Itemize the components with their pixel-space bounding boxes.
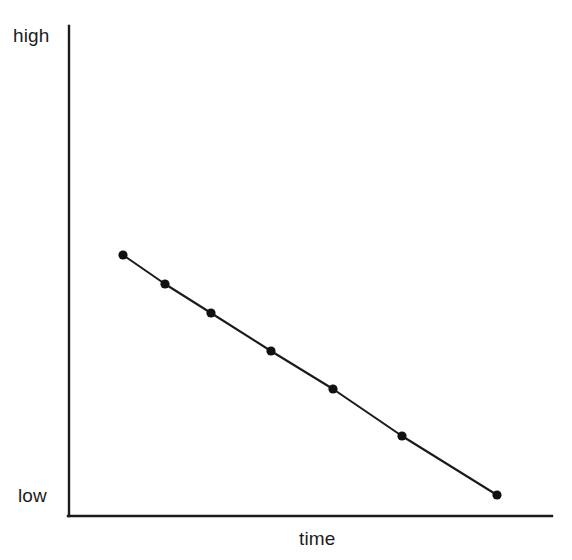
data-point-marker (160, 279, 169, 288)
x-axis-label: time (299, 529, 335, 548)
series-line-trend (123, 255, 497, 495)
data-point-marker (118, 250, 127, 259)
data-point-marker (206, 308, 215, 317)
data-point-marker (397, 431, 406, 440)
data-series-trend (118, 250, 501, 499)
chart-figure: high low time (0, 0, 572, 560)
data-point-marker (266, 346, 275, 355)
y-axis-low-label: low (18, 486, 47, 505)
axes-group (68, 26, 552, 516)
line-chart-plot (0, 0, 572, 560)
data-point-marker (492, 490, 501, 499)
data-point-marker (328, 384, 337, 393)
y-axis-high-label: high (13, 26, 49, 45)
